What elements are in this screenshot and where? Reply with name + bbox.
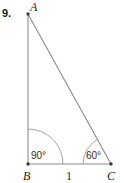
vertex-label-b: B [23, 169, 31, 183]
side-length-label-bc: 1 [66, 169, 72, 183]
geometry-figure: 9. A B C 1 90° 60° [0, 0, 124, 183]
angle-measure-label-b: 90° [31, 150, 46, 161]
triangle-side-ca [28, 14, 111, 164]
vertex-dot-c [109, 162, 112, 165]
vertex-label-c: C [107, 169, 116, 183]
vertex-label-a: A [29, 0, 38, 14]
triangle-diagram: A B C 1 90° 60° [0, 0, 124, 183]
angle-measure-label-c: 60° [86, 150, 101, 161]
vertex-dot-b [26, 162, 29, 165]
